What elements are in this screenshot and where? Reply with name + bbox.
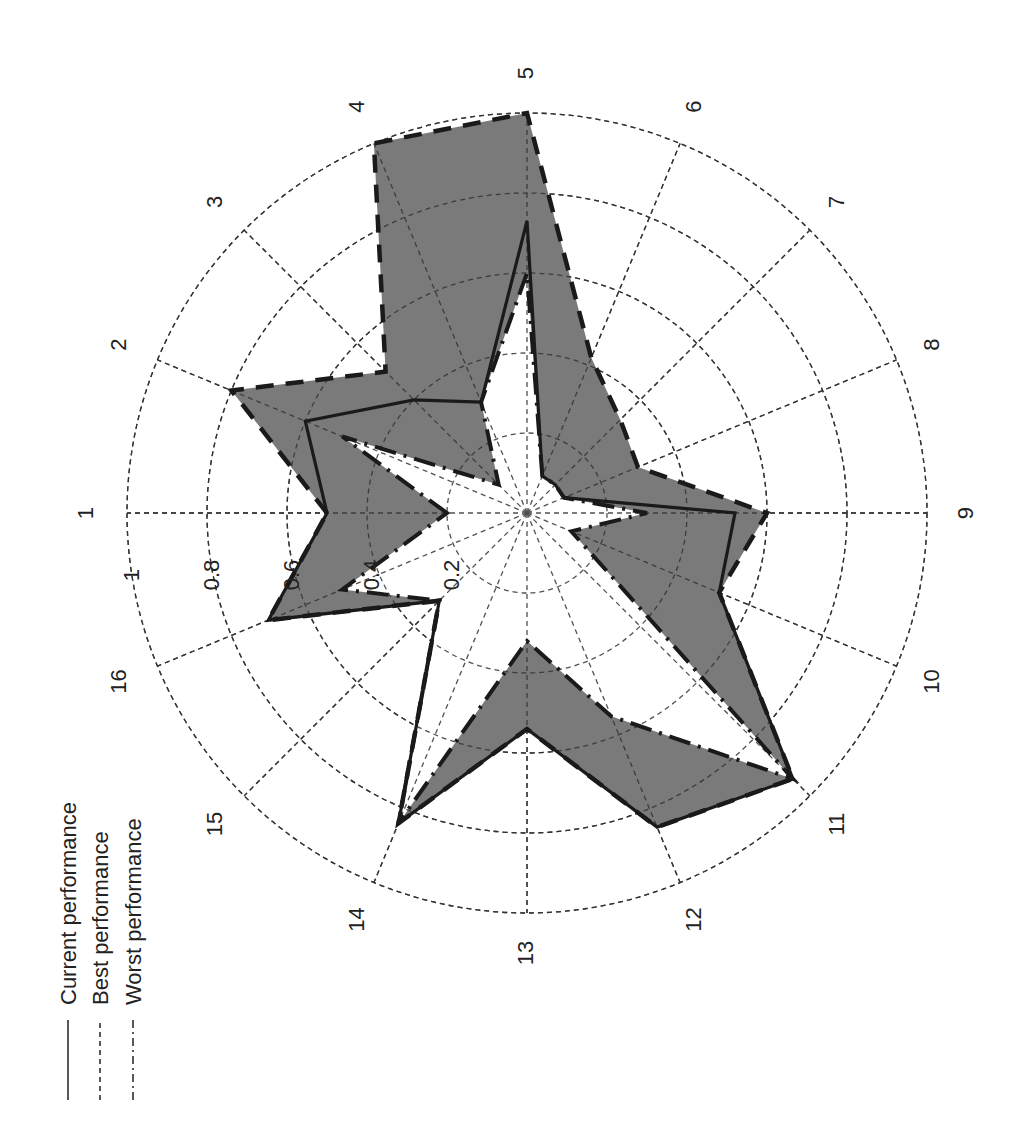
- spoke-label: 10: [919, 669, 944, 693]
- legend-best-label: Best performance: [88, 831, 113, 1005]
- spoke-label: 9: [953, 507, 978, 519]
- spoke-label: 13: [513, 941, 538, 965]
- radial-tick-label: 1: [119, 569, 144, 581]
- spoke-label: 15: [202, 812, 227, 836]
- spoke-label: 5: [513, 67, 538, 79]
- performance-polygons: [127, 113, 927, 913]
- radial-tick-label: 0.8: [199, 560, 224, 591]
- spoke-label: 12: [681, 907, 706, 931]
- legend-worst-label: Worst performance: [121, 818, 146, 1005]
- spoke-label: 14: [344, 907, 369, 931]
- spoke-label: 16: [106, 669, 131, 693]
- spoke-label: 4: [344, 100, 369, 112]
- spoke-label: 2: [106, 338, 131, 350]
- radial-tick-label: 0.6: [279, 560, 304, 591]
- spoke-label: 8: [919, 338, 944, 350]
- legend-current-label: Current performance: [56, 802, 81, 1005]
- radar-chart: 12345678910111213141516 0.20.40.60.81 Cu…: [0, 0, 1011, 1129]
- radial-tick-label: 0.2: [439, 560, 464, 591]
- spoke-label: 7: [824, 196, 849, 208]
- spoke-label: 11: [824, 813, 849, 836]
- spoke-label: 1: [73, 507, 98, 519]
- spoke-label: 6: [681, 100, 706, 112]
- spoke-label: 3: [202, 196, 227, 208]
- legend: Current performance Best performance Wor…: [56, 802, 146, 1100]
- radial-tick-label: 0.4: [359, 560, 384, 591]
